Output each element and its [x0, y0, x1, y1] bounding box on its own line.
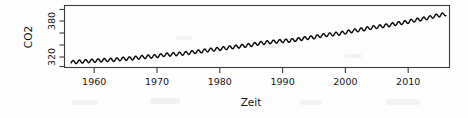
co2-figure: 380 320 CO2 1960 1970 1980 1990 2000 201…: [0, 0, 468, 118]
x-axis-ticks: [94, 68, 408, 74]
x-tick-label-1970: 1970: [145, 76, 169, 87]
x-tick-label-2000: 2000: [333, 76, 357, 87]
y-axis-title: CO2: [22, 26, 34, 48]
x-axis-title: Zeit: [241, 96, 262, 108]
y-tick-label-320: 320: [46, 48, 57, 66]
x-tick-label-1990: 1990: [271, 76, 295, 87]
x-tick-label-2010: 2010: [396, 76, 420, 87]
co2-chart-svg: 380 320 CO2 1960 1970 1980 1990 2000 201…: [0, 0, 468, 118]
y-tick-label-380: 380: [46, 12, 57, 30]
y-axis-ticks: [60, 10, 65, 67]
x-tick-label-1960: 1960: [82, 76, 106, 87]
co2-data-line: [71, 13, 447, 63]
x-axis-tick-labels: 1960 1970 1980 1990 2000 2010: [82, 76, 420, 87]
y-axis-tick-labels: 380 320: [46, 12, 57, 66]
x-tick-label-1980: 1980: [208, 76, 232, 87]
